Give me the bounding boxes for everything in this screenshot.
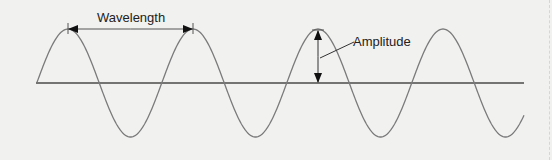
- amplitude-indicator: [312, 30, 354, 82]
- wavelength-label: Wavelength: [97, 11, 165, 24]
- amplitude-leader-line: [320, 42, 354, 58]
- page-edge-divider: [548, 0, 550, 160]
- wave-diagram-canvas: [0, 0, 552, 160]
- wave-diagram: Wavelength Amplitude: [0, 0, 552, 160]
- amplitude-label: Amplitude: [353, 35, 411, 48]
